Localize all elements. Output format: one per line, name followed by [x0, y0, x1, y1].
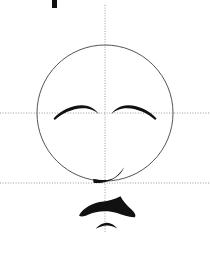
mouth-curve	[93, 167, 124, 183]
lower-small-arc	[96, 223, 118, 229]
lower-bowtie-shape	[79, 196, 135, 217]
figure-canvas	[0, 0, 210, 253]
face-diagram-svg	[0, 0, 210, 253]
